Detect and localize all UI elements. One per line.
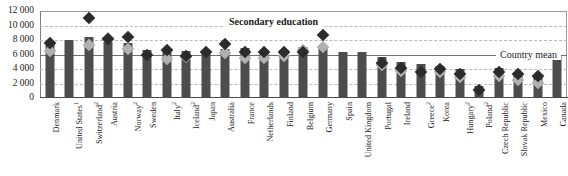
x-axis-category-label: Iceland2: [189, 102, 201, 129]
bar[interactable]: [553, 55, 562, 99]
bar-group[interactable]: [60, 11, 80, 98]
bar-group[interactable]: [469, 11, 489, 98]
x-axis-category-label: Mexico: [541, 102, 549, 127]
bar[interactable]: [65, 40, 74, 98]
plot-area: Secondary educationCountry mean: [40, 11, 567, 98]
bar[interactable]: [319, 47, 328, 98]
bar-group[interactable]: [79, 11, 99, 98]
x-axis-category-label: Ireland: [404, 102, 412, 125]
chart-root: 12 00010 0008 0006 0004 0002 0000 Second…: [0, 0, 568, 176]
y-axis-tick-labels: 12 00010 0008 0006 0004 0002 0000: [0, 0, 36, 98]
country-mean-label: Country mean: [496, 49, 561, 60]
bar-group[interactable]: [430, 11, 450, 98]
y-axis-tick-label: 12 000: [8, 6, 34, 16]
x-axis-category-labels: DenmarkUnited States1Switzerland2Austria…: [40, 100, 567, 176]
bar-group[interactable]: [118, 11, 138, 98]
bar-group[interactable]: [99, 11, 119, 98]
y-axis-tick-label: 10 000: [8, 21, 34, 31]
x-axis-category-label: Slovak Republic: [521, 102, 529, 156]
y-axis-tick-label: 4 000: [13, 64, 34, 74]
x-axis-category-label: Hungary2: [463, 102, 475, 134]
bar-group[interactable]: [40, 11, 60, 98]
x-axis-category-label: Netherlands: [267, 102, 275, 142]
bar[interactable]: [358, 52, 367, 98]
x-axis-category-label: United Kingdom: [365, 102, 373, 157]
x-axis-category-label: Korea: [443, 102, 451, 122]
bar-group[interactable]: [196, 11, 216, 98]
x-axis-category-label: France: [248, 102, 256, 124]
x-axis-category-label: Greece2: [424, 102, 436, 128]
bar[interactable]: [104, 42, 113, 98]
x-axis-category-label: United States1: [72, 102, 84, 149]
x-axis-category-label: Portugal: [385, 102, 393, 130]
bar[interactable]: [338, 52, 347, 98]
bar-group[interactable]: [372, 11, 392, 98]
x-axis-category-label: Denmark: [53, 102, 61, 132]
x-axis-category-label: Austria: [111, 102, 119, 126]
x-axis-category-label: Canada: [560, 102, 568, 127]
x-axis-category-label: Germany: [326, 102, 334, 132]
secondary-education-marker[interactable]: [82, 12, 95, 25]
x-axis-category-label: Switzerland2: [92, 102, 104, 144]
bar-group[interactable]: [411, 11, 431, 98]
x-axis-category-label: Australia: [228, 102, 236, 132]
bar-group[interactable]: [352, 11, 372, 98]
secondary-education-marker[interactable]: [317, 29, 330, 42]
x-axis-category-label: Italy2: [170, 102, 182, 120]
y-axis-tick-label: 0: [29, 93, 34, 103]
x-axis-line: [40, 97, 568, 98]
x-axis-category-label: Norway2: [131, 102, 143, 131]
y-axis-tick-label: 2 000: [13, 79, 34, 89]
bar-group[interactable]: [177, 11, 197, 98]
x-axis-category-label: Sweden: [150, 102, 158, 128]
bar-group[interactable]: [391, 11, 411, 98]
bar-group[interactable]: [450, 11, 470, 98]
x-axis-category-label: Spain: [346, 102, 354, 121]
x-axis-category-label: Japan: [209, 102, 217, 121]
bar-group[interactable]: [333, 11, 353, 98]
secondary-education-marker[interactable]: [121, 31, 134, 44]
x-axis-category-label: Belgium: [307, 102, 315, 130]
y-axis-tick-label: 8 000: [13, 35, 34, 45]
secondary-education-label: Secondary education: [225, 16, 322, 27]
x-axis-category-label: Poland2: [482, 102, 494, 128]
x-axis-category-label: Finland: [287, 102, 295, 127]
bar-group[interactable]: [157, 11, 177, 98]
bar-group[interactable]: [138, 11, 158, 98]
x-axis-category-label: Czech Republic: [502, 102, 510, 154]
y-axis-tick-label: 6 000: [13, 50, 34, 60]
